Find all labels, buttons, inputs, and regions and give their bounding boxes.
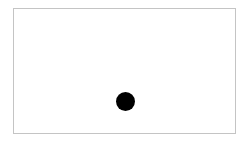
canvas-area bbox=[13, 8, 236, 134]
black-dot[interactable] bbox=[116, 92, 135, 111]
